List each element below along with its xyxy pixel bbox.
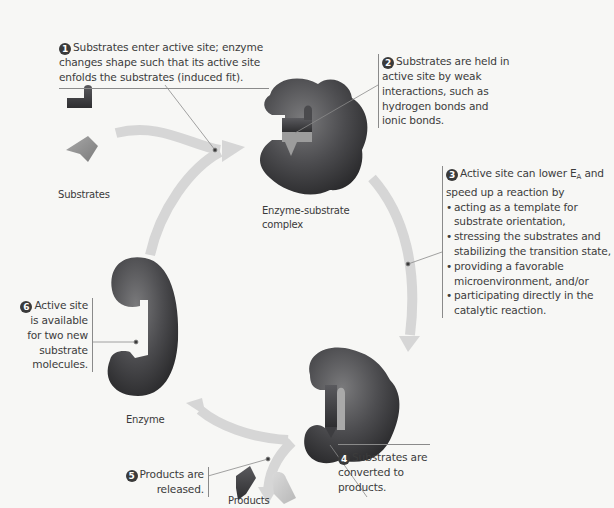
products-label: Products [228, 494, 270, 507]
enzyme-shape [108, 257, 179, 396]
substrate-molecules [66, 85, 98, 162]
enzyme-cycle-diagram: 1Substrates enter active site; enzyme ch… [0, 0, 614, 508]
step-4-callout: 4Substrates are converted to products. [338, 444, 430, 495]
step-6-callout: 6Active site is available for two new su… [18, 298, 93, 372]
step-6-number: 6 [20, 301, 32, 313]
step-6-text: Active site is available for two new sub… [27, 299, 88, 370]
complex-label-line2: complex [262, 218, 303, 231]
step-1-number: 1 [59, 43, 71, 55]
step-4-text: Substrates are converted to products. [338, 451, 427, 493]
substrates-label: Substrates [58, 188, 110, 201]
step-3-callout: 3Active site can lower EA and speed up a… [442, 166, 612, 318]
complex-label-line1: Enzyme-substrate [262, 204, 349, 217]
step-2-callout: 2Substrates are held in active site by w… [378, 54, 510, 128]
step-3-number: 3 [446, 169, 458, 181]
step-3-bullet-list: acting as a template for substrate orien… [446, 200, 612, 318]
step-3-intro: Active site can lower E [460, 167, 577, 179]
step-5-text: Products are released. [140, 468, 204, 495]
step-5-number: 5 [126, 470, 138, 482]
step-2-number: 2 [382, 57, 394, 69]
enzyme-label: Enzyme [126, 413, 165, 426]
enzyme-substrate-complex-shape [260, 79, 367, 195]
step-3-bullet: stressing the substrates and stabilizing… [446, 229, 612, 259]
step-3-bullet: providing a favorable microenvironment, … [446, 259, 612, 289]
step-3-bullet: acting as a template for substrate orien… [446, 200, 612, 230]
step-1-callout: 1Substrates enter active site; enzyme ch… [59, 40, 269, 89]
step-2-text: Substrates are held in active site by we… [382, 55, 509, 126]
step-5-callout: 5Products are released. [118, 467, 209, 497]
step-3-bullet: participating directly in the catalytic … [446, 288, 612, 318]
step-4-number: 4 [338, 453, 350, 465]
step-1-text: Substrates enter active site; enzyme cha… [59, 41, 263, 83]
